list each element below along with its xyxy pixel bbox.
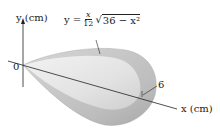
y-axis-label-text: y (cm): [16, 12, 48, 23]
x-axis-label: x (cm): [181, 104, 213, 114]
equation-fraction: x 12: [83, 11, 93, 28]
y-axis-label: y (cm): [16, 13, 48, 23]
fraction-denominator: 12: [83, 20, 93, 28]
radicand: 36 − x²: [102, 14, 140, 26]
origin-label: 0: [13, 62, 19, 72]
equation-lhs: y =: [64, 14, 81, 25]
equation: y = x 12 √ 36 − x²: [64, 11, 140, 28]
radius-label: 6: [158, 80, 164, 90]
